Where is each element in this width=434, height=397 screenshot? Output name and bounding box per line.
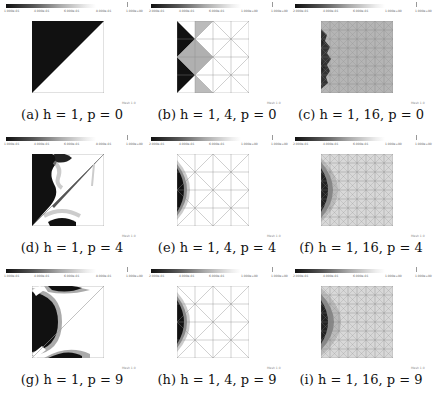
colorbar-ticks: 2.000e-01 4.000e-01 6.000e-01 1.000e+00 …: [149, 9, 289, 15]
solution-plot: [177, 154, 249, 226]
colorbar: [6, 4, 96, 8]
mesh-label: Mesh 1.0: [267, 101, 281, 105]
mesh-label: Mesh 1.0: [411, 101, 425, 105]
colorbar-ticks: 1.000e-01 4.000e-01 6.000e-01 8.000e-01 …: [4, 274, 144, 280]
caption: (d) h = 1, p = 4: [0, 240, 144, 255]
solution-plot: [321, 21, 393, 93]
colorbar-max-tick: [416, 267, 417, 272]
colorbar-ticks: 2.000e-01 4.000e-01 6.000e-01 1.000e+00 …: [293, 142, 433, 148]
solution-plot: [32, 21, 104, 93]
caption: (a) h = 1, p = 0: [0, 107, 144, 122]
colorbar: [295, 137, 385, 141]
panel-a: 1.000e-01 4.000e-01 6.000e-01 8.000e-01 …: [0, 0, 144, 132]
mesh-label: Mesh 1.0: [411, 366, 425, 370]
panel-b: 2.000e-01 4.000e-01 6.000e-01 1.000e+00 …: [145, 0, 289, 132]
colorbar: [151, 4, 241, 8]
solution-plot: [32, 286, 104, 358]
caption: (h) h = 1, 4, p = 9: [145, 372, 289, 387]
colorbar-max-tick: [272, 267, 273, 272]
caption: (g) h = 1, p = 9: [0, 372, 144, 387]
panel-i: 2.000e-01 4.000e-01 6.000e-01 1.000e+00 …: [289, 265, 433, 397]
panel-g: 1.000e-01 4.000e-01 6.000e-01 8.000e-01 …: [0, 265, 144, 397]
colorbar-max-tick: [272, 2, 273, 7]
caption: (e) h = 1, 4, p = 4: [145, 240, 289, 255]
colorbar-max-tick: [127, 267, 128, 272]
colorbar-ticks: 2.000e-01 4.000e-01 6.000e-01 1.000e+00 …: [149, 142, 289, 148]
mesh-label: Mesh 1.0: [122, 234, 136, 238]
colorbar: [6, 137, 96, 141]
colorbar-ticks: 2.000e-01 4.000e-01 6.000e-01 1.000e+00 …: [149, 274, 289, 280]
panel-f: 2.000e-01 4.000e-01 6.000e-01 1.000e+00 …: [289, 133, 433, 265]
caption: (f) h = 1, 16, p = 4: [289, 240, 433, 255]
colorbar-ticks: 1.000e-01 4.000e-01 6.000e-01 8.000e-01 …: [4, 142, 144, 148]
caption: (b) h = 1, 4, p = 0: [145, 107, 289, 122]
colorbar-ticks: 2.000e-01 4.000e-01 6.000e-01 1.000e+00 …: [293, 9, 433, 15]
solution-plot: [177, 286, 249, 358]
colorbar-max-tick: [127, 135, 128, 140]
panel-c: 2.000e-01 4.000e-01 6.000e-01 1.000e+00 …: [289, 0, 433, 132]
solution-plot: [321, 286, 393, 358]
solution-plot: [177, 21, 249, 93]
colorbar-max-tick: [416, 135, 417, 140]
colorbar: [151, 269, 241, 273]
caption: (i) h = 1, 16, p = 9: [289, 372, 433, 387]
panel-d: 1.000e-01 4.000e-01 6.000e-01 8.000e-01 …: [0, 133, 144, 265]
mesh-label: Mesh 1.0: [122, 101, 136, 105]
mesh-label: Mesh 1.0: [122, 366, 136, 370]
panel-h: 2.000e-01 4.000e-01 6.000e-01 1.000e+00 …: [145, 265, 289, 397]
colorbar: [295, 269, 385, 273]
colorbar-max-tick: [127, 2, 128, 7]
panel-e: 2.000e-01 4.000e-01 6.000e-01 1.000e+00 …: [145, 133, 289, 265]
colorbar-ticks: 2.000e-01 4.000e-01 6.000e-01 1.000e+00 …: [293, 274, 433, 280]
mesh-label: Mesh 1.0: [411, 234, 425, 238]
caption: (c) h = 1, 16, p = 0: [289, 107, 433, 122]
colorbar-ticks: 1.000e-01 4.000e-01 6.000e-01 8.000e-01 …: [4, 9, 144, 15]
colorbar: [151, 137, 241, 141]
solution-plot: [32, 154, 104, 226]
solution-plot: [321, 154, 393, 226]
colorbar-max-tick: [272, 135, 273, 140]
mesh-label: Mesh 1.0: [267, 234, 281, 238]
mesh-label: Mesh 1.0: [267, 366, 281, 370]
colorbar: [6, 269, 96, 273]
colorbar-max-tick: [416, 2, 417, 7]
colorbar: [295, 4, 385, 8]
